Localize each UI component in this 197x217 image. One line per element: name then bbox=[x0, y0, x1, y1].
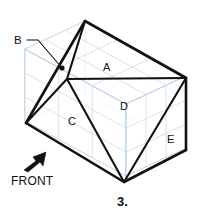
face-label-c: C bbox=[68, 116, 76, 127]
callout-label-b: B bbox=[14, 35, 22, 47]
marked-point-dot bbox=[59, 65, 64, 70]
face-label-d: D bbox=[120, 101, 128, 112]
front-direction-arrow bbox=[24, 152, 46, 172]
figure-container: B A C D E FRONT 3. bbox=[0, 0, 197, 217]
edge-junction-to-right bbox=[67, 78, 186, 79]
face-label-e: E bbox=[167, 134, 174, 145]
leader-line-b bbox=[27, 40, 62, 68]
edge-left-to-apex bbox=[26, 21, 85, 123]
edge-junction-to-bottom bbox=[67, 79, 124, 182]
front-orientation-label: FRONT bbox=[11, 175, 53, 187]
callout-leader bbox=[27, 40, 62, 68]
figure-number-label: 3. bbox=[117, 195, 128, 208]
face-label-a: A bbox=[103, 62, 110, 73]
